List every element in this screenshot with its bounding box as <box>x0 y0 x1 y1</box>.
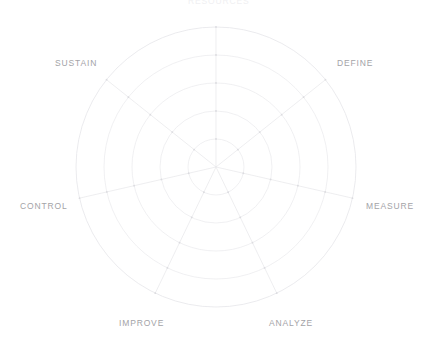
grid-vertex-dot <box>167 267 169 269</box>
grid-vertex-dot <box>106 79 108 81</box>
grid-vertex-dot <box>264 267 266 269</box>
grid-vertex-dot <box>242 172 244 174</box>
grid-vertex-dot <box>128 96 130 98</box>
grid-vertex-dot <box>215 82 217 84</box>
grid-vertex-dot <box>149 114 151 116</box>
axis-label-analyze: ANALYZE <box>269 318 313 329</box>
grid-vertex-dot <box>215 110 217 112</box>
grid-spoke <box>80 167 216 198</box>
grid-spoke <box>155 167 216 293</box>
axis-label-sustain: SUSTAIN <box>55 58 97 69</box>
grid-vertex-dot <box>270 179 272 181</box>
grid-vertex-dot <box>179 242 181 244</box>
grid-spoke <box>216 167 277 293</box>
grid-vertex-dot <box>79 197 81 199</box>
grid-vertex-dot <box>276 292 278 294</box>
radar-chart-canvas: RESOURCES DEFINE MEASURE ANALYZE IMPROVE… <box>0 0 429 344</box>
grid-vertex-dot <box>324 191 326 193</box>
grid-vertex-dot <box>188 172 190 174</box>
grid-spokes-group <box>80 27 353 293</box>
grid-vertex-dot <box>237 149 239 151</box>
grid-vertex-dot <box>193 149 195 151</box>
grid-vertex-dot <box>352 197 354 199</box>
axis-label-resources: RESOURCES <box>188 0 250 7</box>
grid-vertex-dot <box>106 191 108 193</box>
grid-vertex-dot <box>227 191 229 193</box>
grid-vertex-dot <box>259 131 261 133</box>
grid-vertex-dot <box>215 54 217 56</box>
grid-vertex-dot <box>161 179 163 181</box>
grid-vertex-dot <box>252 242 254 244</box>
grid-spoke <box>216 167 352 198</box>
grid-vertex-dot <box>303 96 305 98</box>
grid-vertex-dot <box>215 26 217 28</box>
grid-vertex-dot <box>133 185 135 187</box>
grid-vertex-dot <box>191 217 193 219</box>
grid-vertex-dot <box>171 131 173 133</box>
grid-vertex-dot <box>325 79 327 81</box>
grid-vertex-dot <box>215 138 217 140</box>
grid-vertex-dot <box>239 217 241 219</box>
grid-vertex-dot <box>281 114 283 116</box>
radar-grid-svg <box>0 0 429 344</box>
grid-vertex-dot <box>203 191 205 193</box>
grid-vertex-dot <box>297 185 299 187</box>
axis-label-measure: MEASURE <box>366 201 414 212</box>
axis-label-control: CONTROL <box>20 201 68 212</box>
grid-vertex-dot <box>154 292 156 294</box>
axis-label-define: DEFINE <box>337 58 373 69</box>
axis-label-improve: IMPROVE <box>119 318 164 329</box>
